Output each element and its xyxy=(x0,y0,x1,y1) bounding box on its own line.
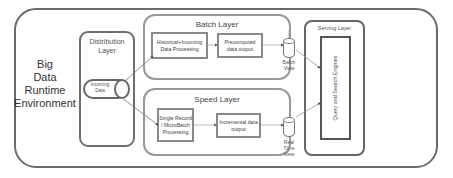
connector-arrows xyxy=(0,0,453,178)
